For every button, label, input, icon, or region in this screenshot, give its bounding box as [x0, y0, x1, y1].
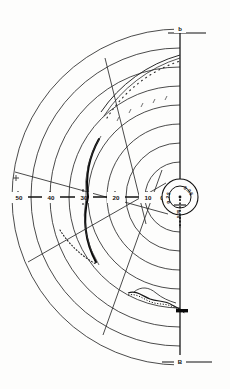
polar-chart-svg: 50 40 30 20 10 0 b B — [0, 0, 230, 389]
axis-label-bottom: B — [178, 359, 183, 365]
tick-label-40: 40 — [48, 194, 55, 201]
tick-label-50: 50 — [16, 194, 23, 201]
polar-diagram-figure: 50 40 30 20 10 0 b B — [0, 0, 230, 389]
center-point — [179, 196, 182, 199]
center-group: 0.25 0.35 0.30 — [162, 179, 198, 228]
tick-label-10: 10 — [145, 194, 152, 201]
upper-contour-ticks — [117, 96, 167, 121]
left-edge-marker — [13, 175, 19, 181]
tick-label-20: 20 — [113, 194, 120, 201]
axis-label-top: b — [178, 26, 182, 32]
perturbation-end-marker — [176, 309, 188, 312]
